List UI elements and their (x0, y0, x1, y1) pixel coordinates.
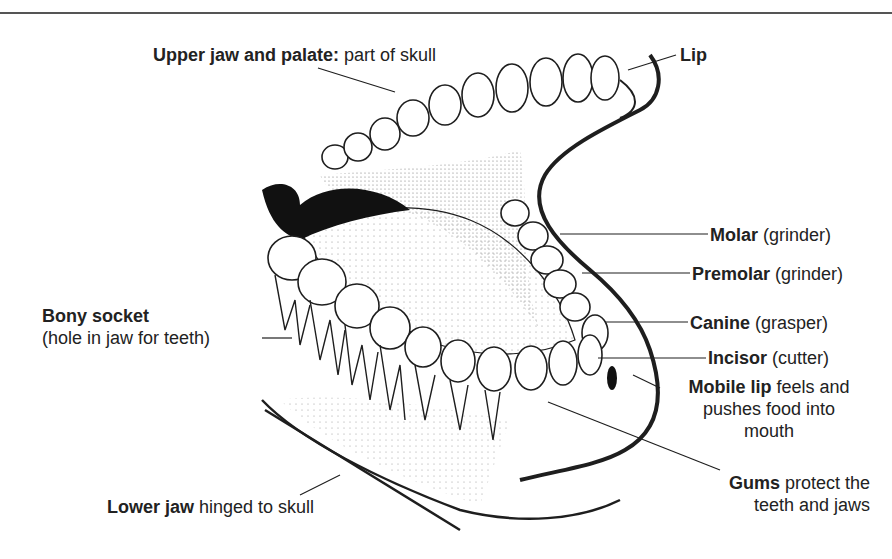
desc-upper-jaw: part of skull (339, 45, 436, 65)
label-upper-jaw: Upper jaw and palate: part of skull (153, 44, 436, 66)
term-lip: Lip (680, 45, 707, 65)
upper-teeth (322, 54, 619, 169)
label-lip: Lip (680, 44, 707, 66)
desc-molar: (grinder) (758, 225, 831, 245)
desc-bony-socket: (hole in jaw for teeth) (42, 327, 210, 349)
term-lower-jaw: Lower jaw (107, 497, 194, 517)
desc-mobile-lip-3: mouth (664, 420, 874, 442)
label-lower-jaw: Lower jaw hinged to skull (107, 496, 314, 518)
term-incisor: Incisor (708, 348, 767, 368)
term-mobile-lip: Mobile lip (688, 377, 771, 397)
desc-mobile-lip-2: pushes food into (664, 398, 874, 420)
label-premolar: Premolar (grinder) (692, 263, 843, 285)
desc-lower-jaw: hinged to skull (194, 497, 314, 517)
term-canine: Canine (690, 313, 750, 333)
desc-incisor: (cutter) (767, 348, 829, 368)
desc-premolar: (grinder) (770, 264, 843, 284)
label-bony-socket: Bony socket (hole in jaw for teeth) (42, 305, 210, 349)
term-molar: Molar (710, 225, 758, 245)
label-canine: Canine (grasper) (690, 312, 828, 334)
desc-gums-1: protect the (780, 473, 870, 493)
desc-gums-2: teeth and jaws (680, 494, 870, 516)
term-gums: Gums (729, 473, 780, 493)
label-incisor: Incisor (cutter) (708, 347, 829, 369)
desc-canine: (grasper) (750, 313, 828, 333)
label-mobile-lip: Mobile lip feels and pushes food into mo… (664, 376, 874, 442)
desc-mobile-lip-1: feels and (771, 377, 849, 397)
label-gums: Gums protect the teeth and jaws (680, 472, 870, 516)
lip-mark (607, 366, 617, 390)
term-upper-jaw: Upper jaw and palate: (153, 45, 339, 65)
term-bony-socket: Bony socket (42, 306, 149, 326)
term-premolar: Premolar (692, 264, 770, 284)
label-molar: Molar (grinder) (710, 224, 831, 246)
